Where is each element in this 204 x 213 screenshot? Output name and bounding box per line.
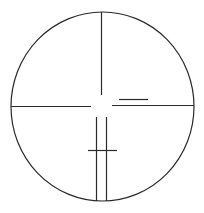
reticle-diagram — [0, 0, 204, 213]
